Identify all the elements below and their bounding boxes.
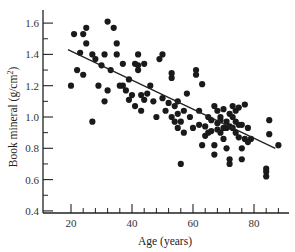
- data-point: [83, 40, 89, 46]
- data-point: [208, 128, 214, 134]
- data-point: [80, 31, 86, 37]
- y-axis-title: Book mineral (g/cm2): [6, 67, 20, 168]
- data-points: [68, 18, 282, 179]
- x-tick-label: 80: [249, 217, 261, 229]
- data-point: [141, 61, 147, 67]
- data-point: [129, 92, 135, 98]
- data-point: [166, 100, 172, 106]
- y-tick-label: 1.2: [25, 80, 39, 92]
- data-point: [220, 136, 226, 142]
- data-point: [135, 67, 141, 73]
- data-point: [74, 67, 80, 73]
- data-point: [123, 87, 129, 93]
- data-point: [181, 130, 187, 136]
- data-point: [105, 87, 111, 93]
- data-point: [159, 51, 165, 57]
- data-point: [193, 67, 199, 73]
- data-point: [239, 156, 245, 162]
- data-point: [138, 108, 144, 114]
- y-axis-title-main: Book mineral (g/cm: [7, 75, 20, 168]
- y-axis-title-end: ): [7, 67, 20, 71]
- data-point: [175, 111, 181, 117]
- data-point: [101, 98, 107, 104]
- data-point: [114, 51, 120, 57]
- data-point: [181, 108, 187, 114]
- data-point: [150, 98, 156, 104]
- x-tick-label: 20: [66, 217, 78, 229]
- data-point: [187, 114, 193, 120]
- data-point: [178, 119, 184, 125]
- data-point: [114, 40, 120, 46]
- data-point: [162, 108, 168, 114]
- data-point: [202, 123, 208, 129]
- data-point: [175, 125, 181, 131]
- data-point: [199, 142, 205, 148]
- data-point: [71, 31, 77, 37]
- x-tick-label: 40: [127, 217, 139, 229]
- data-point: [220, 106, 226, 112]
- data-point: [242, 101, 248, 107]
- regression-line: [68, 50, 275, 149]
- x-axis-title: Age (years): [138, 235, 192, 248]
- data-point: [169, 75, 175, 81]
- data-point: [83, 25, 89, 31]
- data-point: [199, 81, 205, 87]
- data-point: [80, 72, 86, 78]
- data-point: [245, 125, 251, 131]
- y-tick-label: 0.6: [25, 174, 39, 186]
- data-point: [211, 142, 217, 148]
- data-point: [239, 122, 245, 128]
- data-point: [135, 51, 141, 57]
- data-point: [236, 105, 242, 111]
- data-point: [275, 142, 281, 148]
- data-point: [105, 18, 111, 24]
- data-point: [68, 83, 74, 89]
- data-point: [184, 90, 190, 96]
- y-tick-label: 0.4: [25, 205, 39, 217]
- data-point: [239, 145, 245, 151]
- data-point: [178, 161, 184, 167]
- data-point: [144, 90, 150, 96]
- data-point: [263, 166, 269, 172]
- data-point: [266, 131, 272, 137]
- y-tick-label: 0.8: [25, 142, 39, 154]
- x-tick-label: 60: [188, 217, 200, 229]
- data-point: [217, 114, 223, 120]
- data-point: [236, 134, 242, 140]
- data-point: [101, 51, 107, 57]
- data-point: [95, 83, 101, 89]
- data-point: [190, 125, 196, 131]
- data-point: [266, 117, 272, 123]
- data-point: [172, 119, 178, 125]
- y-tick-label: 1.6: [25, 17, 39, 29]
- data-point: [214, 108, 220, 114]
- data-point: [223, 145, 229, 151]
- data-point: [132, 103, 138, 109]
- data-point: [196, 122, 202, 128]
- y-tick-label: 1.4: [25, 48, 39, 60]
- data-point: [89, 119, 95, 125]
- data-point: [120, 61, 126, 67]
- data-point: [153, 114, 159, 120]
- scatter-chart: 0.40.60.81.01.21.41.620406080 Age (years…: [0, 0, 295, 252]
- data-point: [111, 25, 117, 31]
- data-point: [141, 97, 147, 103]
- data-point: [211, 151, 217, 157]
- data-point: [227, 161, 233, 167]
- data-point: [263, 173, 269, 179]
- y-tick-label: 1.0: [25, 111, 39, 123]
